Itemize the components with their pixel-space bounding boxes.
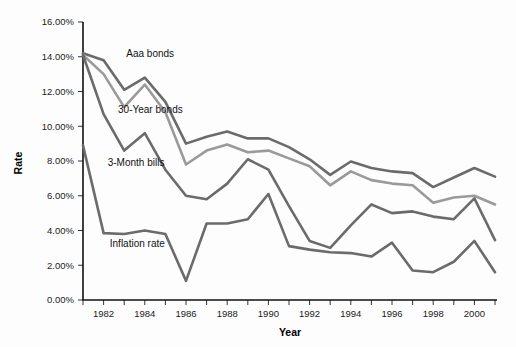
series-label-3-month-bills: 3-Month bills (108, 157, 165, 168)
x-axis-title: Year (279, 326, 301, 338)
y-tick-label: 12.00% (42, 86, 75, 97)
x-tick-label: 1984 (134, 308, 155, 319)
interest-rate-line-chart: 0.00%2.00%4.00%6.00%8.00%10.00%12.00%14.… (0, 0, 516, 347)
x-tick-label: 1992 (299, 308, 320, 319)
y-tick-label: 16.00% (42, 16, 75, 27)
y-tick-label: 2.00% (47, 260, 74, 271)
chart-page: 0.00%2.00%4.00%6.00%8.00%10.00%12.00%14.… (0, 0, 516, 347)
y-tick-label: 6.00% (47, 190, 74, 201)
y-axis-title: Rate (12, 151, 24, 174)
series-label-inflation-rate: Inflation rate (110, 238, 165, 249)
y-tick-label: 10.00% (42, 121, 75, 132)
x-tick-label: 1998 (423, 308, 444, 319)
y-tick-label: 0.00% (47, 294, 74, 305)
y-tick-label: 4.00% (47, 225, 74, 236)
x-tick-label: 1990 (258, 308, 279, 319)
x-axis-ticks: 1982198419861988199019921994199619982000 (83, 300, 495, 319)
x-tick-label: 1996 (381, 308, 402, 319)
series-label-aaa-bonds: Aaa bonds (126, 48, 174, 59)
x-tick-label: 1994 (340, 308, 361, 319)
series-label-30-year-bonds: 30-Year bonds (118, 104, 183, 115)
y-axis-ticks: 0.00%2.00%4.00%6.00%8.00%10.00%12.00%14.… (42, 16, 83, 305)
x-tick-label: 1986 (175, 308, 196, 319)
x-tick-label: 2000 (464, 308, 485, 319)
y-tick-label: 14.00% (42, 51, 75, 62)
x-tick-label: 1988 (217, 308, 238, 319)
y-tick-label: 8.00% (47, 155, 74, 166)
x-tick-label: 1982 (93, 308, 114, 319)
